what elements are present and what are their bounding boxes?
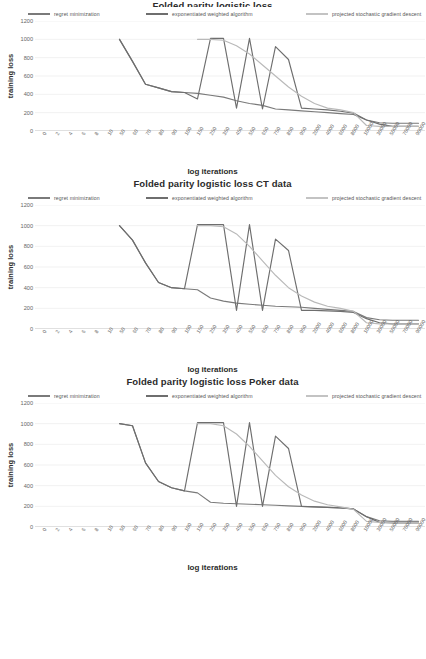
- y-tick-label: 200: [24, 110, 33, 116]
- x-tick-label: 8: [93, 131, 100, 137]
- legend-item-regret-minimization: regret minimization: [28, 195, 146, 201]
- chart-block-1: Folded parity logistic loss regret minim…: [0, 0, 425, 178]
- y-tick-label: 800: [24, 55, 33, 61]
- x-tick-label: 6: [80, 131, 87, 137]
- y-tick-label: 800: [24, 243, 33, 249]
- x-tick-label: 6: [80, 527, 87, 533]
- y-tick-label: 400: [24, 483, 33, 489]
- x-tick-label: 0: [41, 329, 48, 335]
- chart-title-2: Folded parity logistic loss CT data: [0, 178, 425, 191]
- y-axis-title-3: training loss: [0, 403, 13, 527]
- x-tick-label: 4: [67, 329, 74, 335]
- x-tick-label: 2: [54, 131, 61, 137]
- legend-label-regret-minimization: regret minimization: [54, 393, 100, 399]
- y-tick-label: 600: [24, 462, 33, 468]
- plot-canvas-3: [35, 403, 425, 527]
- y-tick-label: 0: [30, 128, 33, 134]
- x-axis-title-1: log iterations: [0, 165, 425, 178]
- legend-label-exponentiated-weighted-algorithm: exponentiated weighted algorithm: [172, 393, 253, 399]
- legend-item-projected-stochastic-gradient-descent: projected stochastic gradient descent: [306, 393, 421, 399]
- y-axis-title-2: training loss: [0, 205, 13, 329]
- legend-item-exponentiated-weighted-algorithm: exponentiated weighted algorithm: [146, 393, 306, 399]
- plot-area-2: training loss 020040060080010001200: [0, 205, 425, 329]
- y-tick-label: 1000: [21, 421, 33, 427]
- x-axis-title-2: log iterations: [0, 363, 425, 376]
- x-tick-label: 8: [93, 527, 100, 533]
- series-line: [120, 225, 419, 324]
- legend-item-regret-minimization: regret minimization: [28, 393, 146, 399]
- y-axis-title-1: training loss: [0, 21, 13, 131]
- chart-block-2: Folded parity logistic loss CT data regr…: [0, 178, 425, 376]
- chart-legend-1: regret minimization exponentiated weight…: [0, 7, 425, 21]
- legend-swatch-projected-stochastic-gradient-descent: [306, 395, 328, 397]
- series-line: [198, 424, 419, 523]
- legend-label-projected-stochastic-gradient-descent: projected stochastic gradient descent: [332, 11, 421, 17]
- y-tick-label: 600: [24, 264, 33, 270]
- chart-svg-3: [35, 403, 425, 527]
- chart-title-3: Folded parity logistic loss Poker data: [0, 376, 425, 389]
- legend-swatch-regret-minimization: [28, 395, 50, 397]
- x-tick-label: 10: [106, 326, 114, 334]
- x-tick-label: 8: [93, 329, 100, 335]
- chart-svg-2: [35, 205, 425, 329]
- chart-block-3: Folded parity logistic loss Poker data r…: [0, 376, 425, 574]
- legend-swatch-exponentiated-weighted-algorithm: [146, 13, 168, 15]
- legend-swatch-projected-stochastic-gradient-descent: [306, 197, 328, 199]
- x-axis-title-3: log iterations: [0, 561, 425, 574]
- legend-item-projected-stochastic-gradient-descent: projected stochastic gradient descent: [306, 195, 421, 201]
- legend-swatch-projected-stochastic-gradient-descent: [306, 13, 328, 15]
- series-line: [198, 39, 419, 126]
- series-line: [120, 423, 419, 523]
- chart-svg-1: [35, 21, 425, 131]
- legend-swatch-exponentiated-weighted-algorithm: [146, 197, 168, 199]
- legend-item-regret-minimization: regret minimization: [28, 11, 146, 17]
- x-tick-label: 90: [170, 128, 178, 136]
- legend-label-projected-stochastic-gradient-descent: projected stochastic gradient descent: [332, 195, 421, 201]
- y-tick-label: 200: [24, 503, 33, 509]
- x-tick-label: 80: [157, 524, 165, 532]
- x-tick-label: 80: [157, 128, 165, 136]
- legend-swatch-regret-minimization: [28, 13, 50, 15]
- y-tick-label: 1200: [21, 202, 33, 208]
- y-axis-ticks-3: 020040060080010001200: [13, 403, 35, 527]
- x-tick-label: 10: [106, 524, 114, 532]
- legend-label-regret-minimization: regret minimization: [54, 195, 100, 201]
- legend-label-regret-minimization: regret minimization: [54, 11, 100, 17]
- y-tick-label: 1200: [21, 400, 33, 406]
- y-tick-label: 0: [30, 524, 33, 530]
- legend-item-exponentiated-weighted-algorithm: exponentiated weighted algorithm: [146, 195, 306, 201]
- y-tick-label: 800: [24, 441, 33, 447]
- y-axis-ticks-1: 020040060080010001200: [13, 21, 35, 131]
- y-tick-label: 1000: [21, 36, 33, 42]
- legend-item-projected-stochastic-gradient-descent: projected stochastic gradient descent: [306, 11, 421, 17]
- chart-legend-3: regret minimization exponentiated weight…: [0, 389, 425, 403]
- chart-legend-2: regret minimization exponentiated weight…: [0, 191, 425, 205]
- y-tick-label: 1200: [21, 18, 33, 24]
- legend-label-exponentiated-weighted-algorithm: exponentiated weighted algorithm: [172, 195, 253, 201]
- y-axis-ticks-2: 020040060080010001200: [13, 205, 35, 329]
- plot-canvas-1: [35, 21, 425, 131]
- legend-label-exponentiated-weighted-algorithm: exponentiated weighted algorithm: [172, 11, 253, 17]
- chart-title-1: Folded parity logistic loss: [0, 0, 425, 7]
- y-tick-label: 400: [24, 91, 33, 97]
- x-tick-label: 0: [41, 527, 48, 533]
- x-tick-label: 4: [67, 527, 74, 533]
- legend-label-projected-stochastic-gradient-descent: projected stochastic gradient descent: [332, 393, 421, 399]
- x-tick-label: 90: [170, 524, 178, 532]
- y-tick-label: 0: [30, 326, 33, 332]
- y-tick-label: 200: [24, 305, 33, 311]
- x-tick-label: 10: [106, 128, 114, 136]
- x-tick-label: 2: [54, 527, 61, 533]
- x-axis-ticks-2: 0246810506070809010015025035045055065075…: [35, 329, 425, 363]
- x-tick-label: 6: [80, 329, 87, 335]
- plot-area-1: training loss 020040060080010001200: [0, 21, 425, 131]
- x-tick-label: 80: [157, 326, 165, 334]
- plot-canvas-2: [35, 205, 425, 329]
- legend-swatch-regret-minimization: [28, 197, 50, 199]
- x-axis-ticks-1: 0246810506070809010015025035045055065075…: [35, 131, 425, 165]
- x-axis-ticks-3: 0246810506070809010015025035045055065075…: [35, 527, 425, 561]
- legend-swatch-exponentiated-weighted-algorithm: [146, 395, 168, 397]
- legend-item-exponentiated-weighted-algorithm: exponentiated weighted algorithm: [146, 11, 306, 17]
- y-tick-label: 400: [24, 285, 33, 291]
- y-tick-label: 1000: [21, 223, 33, 229]
